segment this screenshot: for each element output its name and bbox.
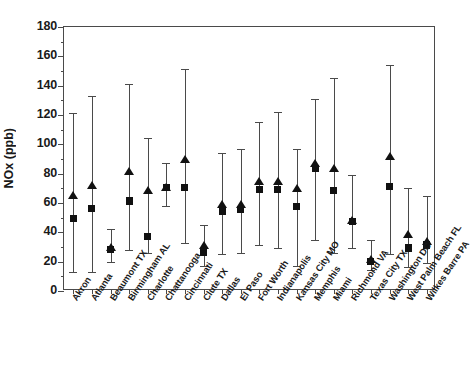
x-tick-label: Akron: [70, 275, 93, 302]
